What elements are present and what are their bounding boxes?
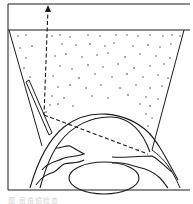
- eye: [30, 114, 178, 194]
- iris-left-2: [36, 160, 84, 185]
- caption-text: 图 房角镜检查: [8, 196, 59, 204]
- arrowhead-up-icon: [45, 5, 51, 12]
- cornea-inner: [40, 117, 150, 188]
- iris-right-2: [112, 163, 168, 188]
- gonioscopy-diagram: [0, 0, 193, 204]
- cornea-outer: [30, 114, 178, 188]
- crystalline-lens: [69, 162, 139, 194]
- goniolens: [8, 30, 190, 150]
- mirror: [26, 80, 52, 135]
- figure-caption: 图 房角镜检查: [0, 196, 193, 204]
- iris-left: [42, 146, 84, 170]
- sclera-right: [152, 150, 180, 188]
- lens-body: [9, 30, 184, 150]
